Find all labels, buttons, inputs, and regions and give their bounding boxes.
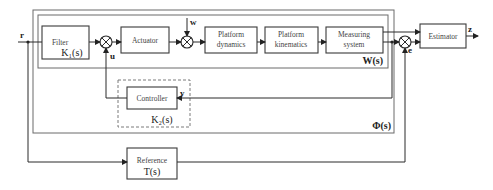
block-diagram: Filter K₁(s) Actuator Platform dynamics … (0, 0, 493, 190)
controller-tf: K₂(s) (151, 114, 172, 126)
controller-block[interactable]: Controller K₂(s) (127, 87, 177, 126)
platform-dynamics-block[interactable]: Platform dynamics (205, 27, 257, 53)
filter-block[interactable]: Filter K₁(s) (42, 26, 89, 59)
actuator-block[interactable]: Actuator (121, 27, 169, 53)
w-frame-label: W(s) (362, 55, 383, 67)
signal-y-label: y (180, 88, 185, 98)
platform-kinematics-label2: kinematics (275, 40, 308, 49)
signal-r-label: r (20, 30, 24, 40)
platform-dynamics-label1: Platform (218, 30, 244, 39)
sum-junction-1 (100, 36, 112, 48)
signal-e-label: e (408, 45, 412, 55)
platform-kinematics-block[interactable]: Platform kinematics (265, 27, 318, 53)
phi-frame-label: Φ(s) (372, 120, 391, 132)
actuator-label: Actuator (132, 36, 159, 45)
measuring-system-label1: Measuring (338, 30, 370, 39)
reference-tf: T(s) (144, 166, 161, 178)
reference-label: Reference (137, 156, 168, 165)
signal-u-label: u (110, 51, 115, 61)
signal-w-label: w (190, 17, 197, 27)
filter-tf: K₁(s) (61, 47, 82, 59)
platform-dynamics-label2: dynamics (217, 40, 246, 49)
estimator-block[interactable]: Estimator (420, 24, 466, 48)
reference-block[interactable]: Reference T(s) (127, 148, 177, 179)
platform-kinematics-label1: Platform (278, 30, 304, 39)
estimator-label: Estimator (428, 32, 458, 41)
measuring-system-label2: system (344, 40, 365, 49)
sum-junction-2 (181, 36, 193, 48)
filter-label: Filter (52, 38, 69, 47)
controller-label: Controller (137, 94, 168, 103)
measuring-system-block[interactable]: Measuring system (326, 27, 383, 53)
signal-z-label: z (468, 24, 472, 34)
